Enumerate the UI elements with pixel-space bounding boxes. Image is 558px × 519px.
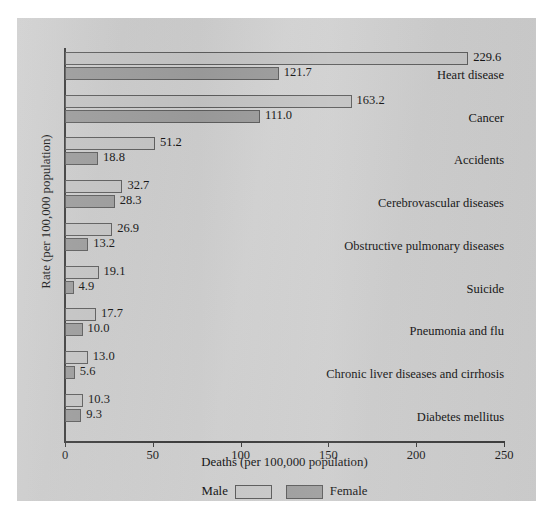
bar-male[interactable]: [65, 137, 155, 150]
y-axis-title: Rate (per 100,000 population): [39, 97, 54, 327]
bar-group: 51.218.8: [65, 137, 504, 165]
bar-value-label: 32.7: [127, 178, 149, 193]
bar-female[interactable]: [65, 409, 81, 422]
bar-group: 163.2111.0: [65, 95, 504, 123]
x-tick-250: [504, 442, 505, 447]
bar-value-label: 13.2: [93, 236, 115, 251]
legend-item-male: Male: [202, 484, 272, 499]
bar-female[interactable]: [65, 110, 260, 123]
bar-value-label: 19.1: [104, 264, 126, 279]
bar-female[interactable]: [65, 281, 74, 294]
category-label: Accidents: [454, 153, 504, 168]
bar-value-label: 10.0: [88, 321, 110, 336]
bar-value-label: 4.9: [79, 279, 95, 294]
bar-female[interactable]: [65, 195, 115, 208]
bar-female[interactable]: [65, 67, 279, 80]
x-axis-title: Deaths (per 100,000 population): [65, 455, 504, 470]
legend-swatch-female-icon: [286, 485, 323, 499]
bar-male[interactable]: [65, 308, 96, 321]
bar-male[interactable]: [65, 95, 352, 108]
category-label: Cerebrovascular diseases: [378, 196, 504, 211]
x-tick-0: [65, 442, 66, 447]
plot-area: 050100150200250 229.6121.7Heart disease1…: [65, 48, 504, 442]
bar-value-label: 229.6: [473, 50, 501, 65]
bar-value-label: 10.3: [88, 392, 110, 407]
category-label: Heart disease: [437, 68, 504, 83]
category-label: Pneumonia and flu: [410, 324, 504, 339]
bar-male[interactable]: [65, 266, 99, 279]
category-label: Suicide: [467, 282, 505, 297]
legend-swatch-male-icon: [235, 485, 272, 499]
legend-label-male: Male: [202, 484, 228, 499]
bar-value-label: 163.2: [357, 93, 385, 108]
category-label: Chronic liver diseases and cirrhosis: [326, 367, 504, 382]
x-tick-100: [241, 442, 242, 447]
bar-group: 19.14.9: [65, 266, 504, 294]
x-tick-200: [416, 442, 417, 447]
bar-value-label: 17.7: [101, 306, 123, 321]
bar-male[interactable]: [65, 394, 83, 407]
category-label: Cancer: [469, 111, 504, 126]
legend-label-female: Female: [330, 484, 368, 499]
bar-value-label: 26.9: [117, 221, 139, 236]
bar-value-label: 5.6: [80, 364, 96, 379]
chart-plate: Rate (per 100,000 population) 0501001502…: [17, 18, 536, 501]
legend-item-female: Female: [286, 484, 368, 499]
bar-value-label: 13.0: [93, 349, 115, 364]
bar-value-label: 111.0: [265, 108, 292, 123]
chart-legend: Male Female: [65, 484, 504, 499]
category-label: Obstructive pulmonary diseases: [344, 239, 504, 254]
bar-male[interactable]: [65, 351, 88, 364]
bar-value-label: 9.3: [86, 407, 102, 422]
bar-male[interactable]: [65, 180, 122, 193]
x-tick-50: [153, 442, 154, 447]
x-axis-line: [64, 441, 505, 443]
bar-value-label: 51.2: [160, 135, 182, 150]
category-label: Diabetes mellitus: [417, 410, 504, 425]
bar-value-label: 28.3: [120, 193, 142, 208]
bar-male[interactable]: [65, 223, 112, 236]
bar-value-label: 121.7: [284, 65, 312, 80]
bar-female[interactable]: [65, 366, 75, 379]
chart-page: Rate (per 100,000 population) 0501001502…: [0, 0, 558, 519]
x-tick-150: [328, 442, 329, 447]
bar-female[interactable]: [65, 238, 88, 251]
bar-male[interactable]: [65, 52, 468, 65]
bar-female[interactable]: [65, 323, 83, 336]
bar-value-label: 18.8: [103, 150, 125, 165]
bar-female[interactable]: [65, 152, 98, 165]
